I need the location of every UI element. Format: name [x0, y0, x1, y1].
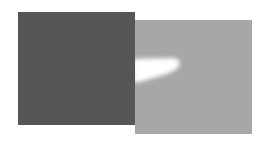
light-square [135, 20, 252, 134]
dark-square [18, 12, 135, 125]
white-highlight-shape [135, 20, 252, 134]
